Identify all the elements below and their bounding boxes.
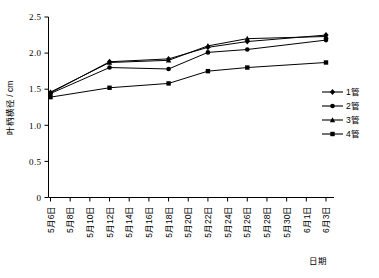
series-group <box>48 32 329 99</box>
data-point-circle <box>245 47 250 52</box>
data-point-circle <box>206 50 211 55</box>
y-tick-label: 1.0 <box>29 121 42 131</box>
y-tick-group <box>45 17 49 198</box>
data-point-circle <box>166 67 171 72</box>
data-point-square <box>245 65 249 69</box>
series-4管 <box>48 60 328 99</box>
x-tick-label: 5月16日 <box>144 206 154 238</box>
series-line <box>51 62 327 97</box>
x-tick-label: 5月6日 <box>46 206 56 233</box>
series-line <box>51 35 327 93</box>
x-tick-label: 5月20日 <box>183 206 193 238</box>
x-tick-label: 6月3日 <box>321 206 331 233</box>
y-tick-label: 0.5 <box>29 157 42 167</box>
legend-label: 3管 <box>346 115 360 125</box>
data-point-circle <box>330 104 335 109</box>
data-point-square <box>107 86 111 90</box>
legend: 1管2管3管4管 <box>322 87 360 139</box>
x-tick-label: 5月24日 <box>223 206 233 238</box>
y-axis-title: 叶柄横径 / cm <box>5 81 15 135</box>
legend-label: 4管 <box>346 129 360 139</box>
y-tick-label-group: 00.51.01.52.02.5 <box>29 12 42 203</box>
data-point-square <box>206 69 210 73</box>
x-tick-label: 5月30日 <box>282 206 292 238</box>
data-point-diamond <box>330 89 335 95</box>
x-tick-group <box>51 198 327 202</box>
series-line <box>51 40 327 93</box>
data-point-square <box>324 60 328 64</box>
line-chart: 00.51.01.52.02.5 5月6日5月8日5月10日5月12日5月14日… <box>0 0 379 278</box>
x-tick-label: 5月12日 <box>105 206 115 238</box>
y-tick-label: 2.0 <box>29 48 42 58</box>
x-tick-label: 5月26日 <box>242 206 252 238</box>
data-point-square <box>166 81 170 85</box>
series-3管 <box>48 34 329 95</box>
data-point-square <box>48 95 52 99</box>
y-tick-label: 1.5 <box>29 84 42 94</box>
x-tick-label: 5月10日 <box>85 206 95 238</box>
x-tick-label-group: 5月6日5月8日5月10日5月12日5月14日5月16日5月18日5月20日5月… <box>46 206 332 238</box>
legend-label: 2管 <box>346 101 360 111</box>
x-tick-label: 5月28日 <box>262 206 272 238</box>
series-2管 <box>48 38 328 96</box>
x-tick-label: 5月18日 <box>164 206 174 238</box>
x-tick-label: 5月22日 <box>203 206 213 238</box>
legend-label: 1管 <box>346 87 360 97</box>
chart-container: 00.51.01.52.02.5 5月6日5月8日5月10日5月12日5月14日… <box>0 0 379 278</box>
y-tick-label: 0 <box>37 193 42 203</box>
x-tick-label: 5月8日 <box>65 206 75 233</box>
data-point-circle <box>107 65 112 70</box>
data-point-square <box>330 132 334 136</box>
series-1管 <box>48 32 329 96</box>
x-tick-label: 5月14日 <box>124 206 134 238</box>
y-tick-label: 2.5 <box>29 12 42 22</box>
x-axis-title: 日期 <box>309 256 327 266</box>
x-tick-label: 6月1日 <box>302 206 312 233</box>
